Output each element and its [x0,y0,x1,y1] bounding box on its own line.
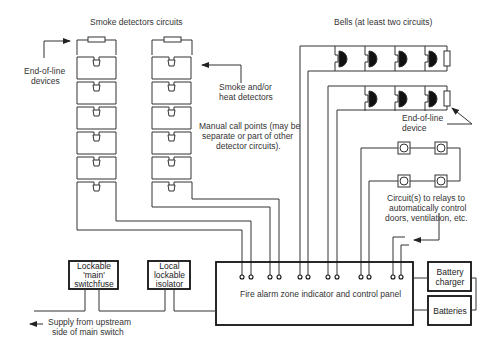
battery-charger-label: Battery charger [428,263,472,291]
relays-label-1: Circuit(s) to relays to [387,193,465,203]
mcp-label-2: separate or part of other [202,131,293,141]
eol-device-label-1: End-of-line [402,113,443,123]
local-isolator-label: Local lockable isolator [148,262,191,289]
panel-terminals [240,275,403,279]
switchfuse-line-3: switchfuse [74,280,114,289]
smoke-heat-label-1: Smoke and/or [219,82,272,92]
batteries-label: Batteries [428,297,472,325]
bells-title: Bells (at least two circuits) [334,17,432,27]
control-panel-label: Fire alarm zone indicator and control pa… [240,289,401,299]
relays-label-2: automatically control [389,203,466,213]
eol-devices-label-2: devices [31,76,60,86]
smoke-circuits-title: Smoke detectors circuits [90,17,183,27]
charger-line-2: charger [436,277,465,287]
bell-circuit-1 [300,46,450,277]
eol-device-label-2: device [402,123,427,133]
main-switchfuse-label: Lockable 'main' switchfuse [69,262,119,289]
relays-label-3: doors, ventilation, etc. [385,213,468,223]
eol-devices-label-1: End-of-line [24,66,65,76]
supply-label-1: Supply from upstream [48,317,131,327]
smoke-heat-label-2: heat detectors [219,92,273,102]
mcp-label-3: detector circuits). [216,141,281,151]
supply-label-2: side of main switch [52,327,124,337]
charger-line-1: Battery [437,267,464,277]
batteries-text: Batteries [433,307,467,316]
smoke-circuit-2 [152,37,279,277]
mcp-label-1: Manual call points (may be [199,121,300,131]
isolator-line-3: isolator [156,280,183,289]
